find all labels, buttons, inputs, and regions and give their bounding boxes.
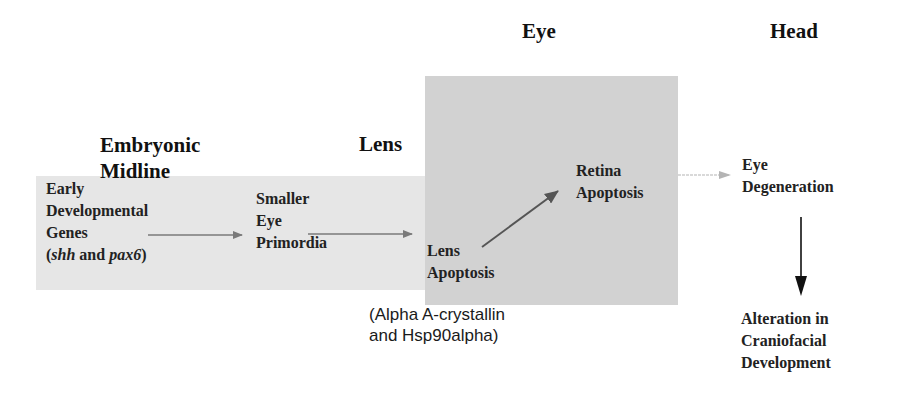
node-early-developmental-genes: Early Developmental Genes (shh and pax6) [46,178,148,266]
node-craniofacial-alteration: Alteration in Craniofacial Development [741,308,831,374]
gene-list: (shh and pax6) [46,244,148,266]
arrow-degeneration-to-craniofacial [795,217,807,296]
node-smaller-eye-primordia: Smaller Eye Primordia [256,188,327,254]
node-retina-apoptosis: Retina Apoptosis [576,160,644,204]
header-head: Head [770,18,818,44]
annotation-proteins: (Alpha A-crystallin and Hsp90alpha) [369,304,505,346]
node-lens-apoptosis: Lens Apoptosis [427,240,495,284]
header-eye: Eye [522,18,556,44]
node-eye-degeneration: Eye Degeneration [742,154,834,198]
header-lens: Lens [359,131,402,157]
header-embryonic-midline: Embryonic Midline [100,132,200,184]
